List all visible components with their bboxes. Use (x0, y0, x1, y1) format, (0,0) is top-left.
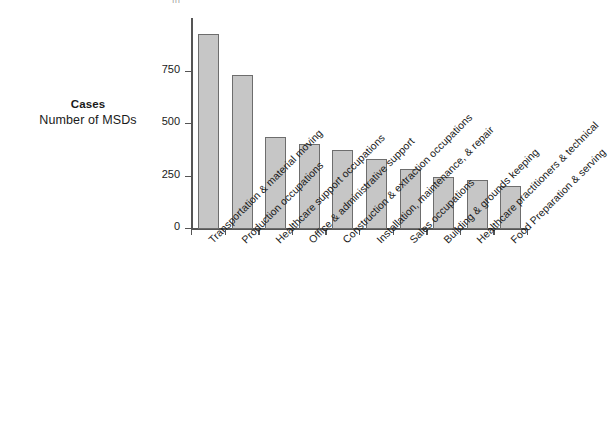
bar (332, 150, 353, 229)
plot-area: 0250500750 (191, 18, 531, 230)
y-axis-title-sub: Number of MSDs (22, 112, 154, 128)
y-axis-tick: 500 (185, 123, 192, 124)
y-axis-tick: 750 (185, 71, 192, 72)
bar (500, 186, 521, 229)
bar (232, 75, 253, 229)
x-axis-tick (325, 229, 326, 235)
x-axis-tick (191, 229, 192, 235)
y-axis-tick-label: 0 (174, 220, 180, 232)
x-axis-tick (393, 229, 394, 235)
bar (366, 159, 387, 229)
x-axis-tick (258, 229, 259, 235)
x-axis-tick (359, 229, 360, 235)
bar (265, 137, 286, 229)
bar (433, 177, 454, 230)
bar (467, 180, 488, 229)
y-axis-title-main: Cases (22, 96, 154, 112)
bar (198, 34, 219, 229)
x-axis-tick (225, 229, 226, 235)
x-axis-tick (527, 229, 528, 235)
x-axis-tick (460, 229, 461, 235)
y-axis-title: Cases Number of MSDs (22, 96, 154, 128)
top-cutoff-fragment: ||| (172, 0, 181, 3)
x-axis-tick (493, 229, 494, 235)
y-axis-tick-label: 750 (162, 63, 180, 75)
y-axis-tick-label: 250 (162, 168, 180, 180)
y-axis-tick: 250 (185, 176, 192, 177)
bar (400, 169, 421, 229)
x-axis-tick (292, 229, 293, 235)
y-axis-tick-label: 500 (162, 115, 180, 127)
bar (299, 144, 320, 229)
x-axis-tick (426, 229, 427, 235)
